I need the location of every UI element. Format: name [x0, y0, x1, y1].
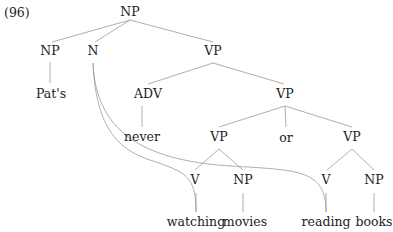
- edge-vp4-v: [327, 149, 352, 170]
- node-np-possessor: NP: [40, 45, 59, 58]
- edge-root-n: [95, 20, 130, 42]
- node-vp2: VP: [276, 88, 293, 101]
- leaf-watching: watching: [167, 216, 225, 229]
- edge-vp2-vp3: [219, 106, 285, 127]
- leaf-never: never: [124, 131, 160, 144]
- node-np2: NP: [364, 174, 383, 187]
- edge-root-np: [52, 20, 130, 42]
- node-n: N: [88, 45, 99, 58]
- node-v1: V: [190, 174, 199, 187]
- edge-root-vp: [130, 20, 213, 42]
- node-np-root: NP: [120, 6, 139, 19]
- edge-vp4-np: [352, 149, 374, 170]
- leaf-books: books: [355, 216, 392, 229]
- node-adv: ADV: [134, 88, 162, 101]
- node-v2: V: [321, 174, 330, 187]
- node-np1: NP: [233, 174, 252, 187]
- node-vp4: VP: [343, 131, 360, 144]
- edge-vp-vp2: [213, 63, 284, 84]
- leaf-reading: reading: [302, 216, 351, 229]
- leaf-pats: Pat's: [36, 88, 66, 101]
- leaf-movies: movies: [223, 216, 267, 229]
- example-number: (96): [4, 5, 30, 20]
- edge-vp-adv: [148, 63, 213, 84]
- leaf-or: or: [279, 132, 293, 145]
- edge-vp3-v: [195, 149, 219, 170]
- edge-vp2-vp4: [285, 106, 352, 127]
- node-vp1: VP: [204, 45, 221, 58]
- edge-vp2-or: [285, 106, 286, 127]
- node-vp3: VP: [210, 131, 227, 144]
